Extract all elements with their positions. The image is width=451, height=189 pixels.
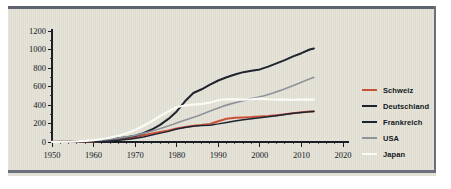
legend-swatch-icon: [362, 137, 377, 139]
chart-figure: 0200400600800100012001950196019701980199…: [0, 0, 451, 189]
legend-item-japan[interactable]: Japan: [362, 146, 442, 162]
y-tick-label: 600: [8, 81, 46, 91]
y-tick-label: 0: [8, 137, 46, 147]
x-tick-label: 1970: [120, 150, 150, 160]
y-tick-label: 400: [8, 100, 46, 110]
legend-item-schweiz[interactable]: Schweiz: [362, 82, 442, 98]
legend-item-frankreich[interactable]: Frankreich: [362, 114, 442, 130]
legend-swatch-icon: [362, 121, 377, 123]
legend-item-usa[interactable]: USA: [362, 130, 442, 146]
axis-group: [48, 29, 349, 147]
x-tick-label: 1950: [37, 150, 67, 160]
legend-label: Japan: [383, 150, 405, 159]
legend-label: Schweiz: [383, 86, 413, 95]
y-tick-label: 1000: [8, 44, 46, 54]
legend-label: Frankreich: [383, 118, 422, 127]
series-line-usa: [52, 77, 314, 141]
y-tick-label: 1200: [8, 26, 46, 36]
legend-label: Deutschland: [383, 102, 429, 111]
legend-label: USA: [383, 134, 399, 143]
x-tick-label: 2020: [328, 150, 358, 160]
x-tick-label: 1960: [79, 150, 109, 160]
y-tick-label: 800: [8, 63, 46, 73]
y-tick-label: 200: [8, 118, 46, 128]
legend-swatch-icon: [362, 89, 377, 91]
chart-legend: SchweizDeutschlandFrankreichUSAJapan: [362, 82, 442, 162]
legend-swatch-icon: [362, 153, 377, 156]
x-tick-label: 1980: [162, 150, 192, 160]
x-tick-label: 2000: [245, 150, 275, 160]
x-tick-label: 2010: [286, 150, 316, 160]
x-tick-label: 1990: [203, 150, 233, 160]
series-group: [52, 49, 314, 142]
legend-item-deutschland[interactable]: Deutschland: [362, 98, 442, 114]
legend-swatch-icon: [362, 105, 377, 107]
